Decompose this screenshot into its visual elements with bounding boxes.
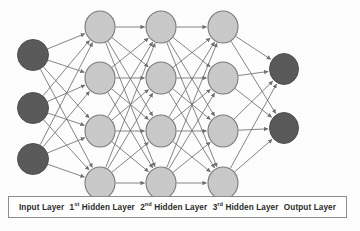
connection-edge	[236, 36, 271, 59]
neuron-node-input-1	[18, 40, 49, 71]
connection-edge	[48, 34, 85, 49]
neuron-node-hidden2-1	[146, 11, 176, 43]
neuron-node-hidden1-2	[85, 62, 115, 94]
neuron-node-hidden1-3	[85, 115, 115, 147]
legend-item-hidden-layer-3: 3rd Hidden Layer	[213, 203, 279, 212]
connection-edge	[43, 40, 89, 95]
connection-edge	[238, 129, 268, 130]
neuron-node-hidden3-4	[208, 167, 238, 199]
connection-edge	[48, 60, 84, 72]
neuron-node-output-1	[270, 54, 299, 85]
legend-item-hidden-layer-2: 2nd Hidden Layer	[140, 203, 207, 212]
legend-item-hidden-layer-1: 1st Hidden Layer	[70, 203, 135, 212]
neuron-node-hidden2-2	[146, 62, 176, 94]
layer-legend-box: Input Layer 1st Hidden Layer 2nd Hidden …	[8, 196, 347, 218]
legend-item-output-layer: Output Layer	[284, 203, 336, 212]
connection-edge	[235, 139, 273, 172]
connection-edges	[40, 27, 276, 183]
neuron-node-hidden3-3	[208, 115, 238, 147]
connection-edge	[44, 67, 90, 118]
neuron-node-input-3	[18, 144, 49, 175]
connection-edge	[112, 38, 148, 67]
connection-edge	[173, 142, 210, 172]
neural-network-diagram: Input Layer 1st Hidden Layer 2nd Hidden …	[0, 0, 360, 231]
connection-edge	[112, 89, 149, 120]
connection-edge	[112, 142, 149, 172]
connection-edge	[48, 164, 84, 177]
connection-edge	[173, 37, 210, 66]
neuron-node-hidden2-3	[146, 115, 176, 147]
neuron-node-hidden1-1	[85, 11, 115, 43]
connection-edge	[48, 138, 85, 153]
neuron-node-hidden1-4	[85, 167, 115, 199]
connection-edge	[173, 38, 210, 67]
neuron-node-hidden2-4	[146, 167, 176, 199]
connection-edge	[173, 89, 211, 120]
neuron-node-input-2	[18, 93, 49, 124]
legend-item-input-layer: Input Layer	[19, 203, 64, 212]
connection-edge	[112, 142, 149, 172]
connection-edge	[238, 71, 268, 75]
connection-edge	[173, 142, 210, 172]
connection-edge	[112, 38, 148, 67]
neuron-node-hidden3-2	[208, 62, 238, 94]
neuron-node-output-2	[270, 113, 299, 144]
neuron-node-hidden3-1	[208, 11, 238, 43]
